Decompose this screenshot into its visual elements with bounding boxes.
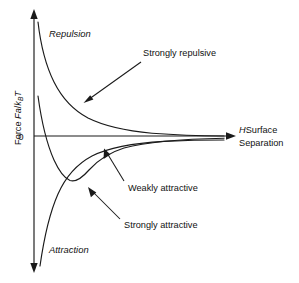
leader-arrow-strongly-attractive-icon (88, 187, 96, 197)
force-separation-diagram: Force Fa/kBT 0 Repulsion Attraction HSur… (0, 0, 299, 283)
x-axis-arrow-right-icon (226, 132, 236, 139)
region-label-repulsion: Repulsion (49, 28, 91, 39)
x-axis-name-line1: Surface (246, 125, 278, 135)
annotation-label-strongly-attractive: Strongly attractive (124, 220, 198, 230)
y-axis-group (30, 9, 37, 273)
region-label-attraction: Attraction (48, 244, 89, 255)
leader-weakly-attractive (107, 153, 124, 181)
leader-strongly-repulsive (89, 62, 142, 100)
annotation-label-weakly-attractive: Weakly attractive (128, 183, 198, 193)
curve-strongly-repulsive (38, 22, 224, 136)
curve-weakly-attractive (38, 96, 224, 181)
leader-arrow-strongly-repulsive-icon (84, 95, 94, 103)
y-axis-arrow-up-icon (30, 9, 37, 19)
annotation-leaders-group (84, 62, 142, 219)
y-axis-arrow-down-icon (30, 263, 37, 273)
y-axis-zero-label: 0 (18, 131, 23, 142)
plot-canvas: Force Fa/kBT 0 Repulsion Attraction HSur… (0, 0, 299, 283)
y-axis-label-t: T (13, 90, 23, 97)
x-axis-label-line1: HSurface (239, 125, 277, 135)
y-axis-label-var: Fa (13, 108, 23, 119)
leader-strongly-attractive (92, 191, 120, 219)
x-axis-label-line2: Separation (239, 138, 283, 148)
annotation-label-strongly-repulsive: Strongly repulsive (143, 48, 216, 58)
